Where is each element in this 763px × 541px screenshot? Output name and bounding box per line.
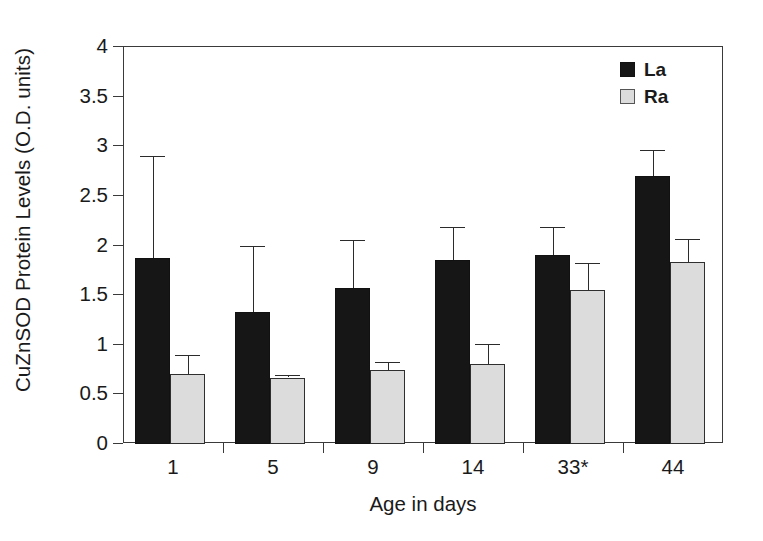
- error-bar-cap-ra-14: [475, 344, 500, 345]
- error-bar-stem-la-5: [253, 246, 254, 312]
- y-axis-tick: [113, 195, 123, 196]
- y-axis-tick-label: 0: [50, 433, 108, 454]
- error-bar-cap-la-9: [340, 240, 365, 241]
- x-axis-tick-label: 5: [228, 456, 318, 478]
- y-axis-tick: [113, 393, 123, 394]
- bar-la-14: [435, 260, 470, 444]
- x-axis-tick: [423, 443, 424, 453]
- y-axis-tick-label: 0.5: [50, 383, 108, 404]
- bar-la-33star: [535, 255, 570, 444]
- y-axis-tick: [113, 344, 123, 345]
- error-bar-stem-la-1: [153, 156, 154, 258]
- error-bar-stem-ra-33star: [588, 263, 589, 290]
- x-axis-tick-label: 14: [428, 456, 518, 478]
- bar-ra-44: [670, 262, 705, 444]
- y-axis-tick: [113, 145, 123, 146]
- error-bar-cap-la-33star: [540, 227, 565, 228]
- x-axis-tick-label: 1: [128, 456, 218, 478]
- error-bar-cap-ra-9: [375, 362, 400, 363]
- bar-la-44: [635, 176, 670, 444]
- legend-label: La: [644, 60, 666, 79]
- light-gray-square-icon: [620, 89, 635, 104]
- y-axis-tick: [113, 245, 123, 246]
- bar-la-9: [335, 288, 370, 444]
- black-square-icon: [620, 62, 635, 77]
- bar-ra-14: [470, 364, 505, 444]
- y-axis-tick: [113, 443, 123, 444]
- x-axis-tick-label: 44: [628, 456, 718, 478]
- bar-ra-33star: [570, 290, 605, 444]
- error-bar-stem-la-44: [653, 150, 654, 176]
- error-bar-cap-ra-44: [675, 239, 700, 240]
- y-axis-tick: [113, 294, 123, 295]
- y-axis-tick: [113, 96, 123, 97]
- y-axis-tick: [113, 46, 123, 47]
- y-axis-tick-label: 4: [50, 36, 108, 57]
- y-axis-tick-label: 2.5: [50, 185, 108, 206]
- error-bar-stem-ra-14: [488, 344, 489, 364]
- y-axis-tick-label: 2: [50, 234, 108, 255]
- bar-la-5: [235, 312, 270, 444]
- error-bar-cap-la-1: [140, 156, 165, 157]
- chart-legend: LaRa: [620, 58, 668, 107]
- x-axis-tick-label: 33*: [528, 456, 618, 478]
- y-axis-title: CuZnSOD Protein Levels (O.D. units): [0, 0, 46, 440]
- x-axis-tick: [323, 443, 324, 453]
- error-bar-cap-la-14: [440, 227, 465, 228]
- x-axis-tick: [523, 443, 524, 453]
- x-axis-tick-label: 9: [328, 456, 418, 478]
- bar-ra-1: [170, 374, 205, 444]
- error-bar-stem-la-14: [453, 227, 454, 261]
- bar-ra-9: [370, 370, 405, 444]
- bar-ra-5: [270, 378, 305, 444]
- y-axis-tick-label: 1: [50, 334, 108, 355]
- y-axis-tick-label: 1.5: [50, 284, 108, 305]
- error-bar-cap-la-5: [240, 246, 265, 247]
- x-axis-tick: [223, 443, 224, 453]
- bar-la-1: [135, 258, 170, 444]
- legend-item-ra: Ra: [620, 85, 668, 107]
- legend-item-la: La: [620, 58, 668, 80]
- x-axis-tick: [623, 443, 624, 453]
- y-axis-tick-label: 3.5: [50, 85, 108, 106]
- chart-figure: CuZnSOD Protein Levels (O.D. units) 00.5…: [0, 0, 763, 541]
- error-bar-cap-ra-33star: [575, 263, 600, 264]
- error-bar-stem-la-33star: [553, 227, 554, 256]
- error-bar-stem-ra-9: [388, 362, 389, 370]
- error-bar-cap-ra-5: [275, 375, 300, 376]
- error-bar-stem-la-9: [353, 240, 354, 289]
- error-bar-cap-la-44: [640, 150, 665, 151]
- legend-label: Ra: [644, 87, 668, 106]
- y-axis-tick-label: 3: [50, 135, 108, 156]
- error-bar-stem-ra-1: [188, 355, 189, 374]
- x-axis-title: Age in days: [123, 492, 723, 516]
- error-bar-stem-ra-44: [688, 239, 689, 263]
- error-bar-cap-ra-1: [175, 355, 200, 356]
